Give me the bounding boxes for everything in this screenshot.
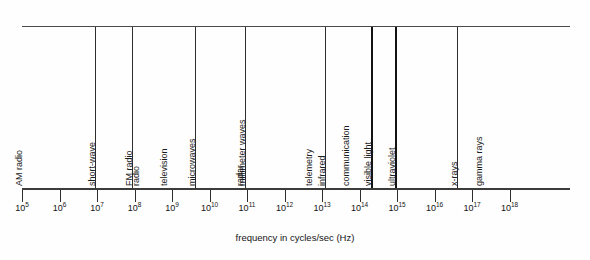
band-label-line: telemetry <box>304 149 315 186</box>
band-label: infrared <box>328 175 359 186</box>
band-label-line: FM radio <box>124 150 135 186</box>
band-label-line: visible light <box>363 142 374 186</box>
band-label: AM radio <box>25 175 61 186</box>
axis-tick <box>97 190 98 202</box>
band-label-line: short-wave <box>87 142 98 186</box>
axis-tick-label: 109 <box>165 203 179 213</box>
axis-tick-label: 1018 <box>501 203 518 213</box>
band-label: x-raysgamma rays <box>460 175 534 186</box>
axis-caption: frequency in cycles/sec (Hz) <box>0 232 590 243</box>
diagram-top-rule <box>22 26 570 27</box>
axis-tick <box>172 190 173 202</box>
axis-tick-label: 1017 <box>463 203 480 213</box>
axis-tick-label: 1014 <box>351 203 368 213</box>
band-label-line: ultraviolet <box>387 147 398 186</box>
axis-tick-label: 1010 <box>201 203 218 213</box>
spectrum-diagram: AM radioshort-waveradioFM radiotelevisio… <box>0 0 590 260</box>
axis-tick-label: 1015 <box>388 203 405 213</box>
band-label-line: microwaves <box>187 138 198 186</box>
axis-tick-label: 107 <box>90 203 104 213</box>
band-label: ultraviolet <box>398 175 437 186</box>
axis-tick-label: 105 <box>15 203 29 213</box>
axis-tick-label: 1011 <box>239 203 256 213</box>
band-label-line: x-rays <box>449 162 460 187</box>
axis-tick-label: 108 <box>128 203 142 213</box>
axis-tick-label: 1012 <box>276 203 293 213</box>
frequency-axis-line <box>22 188 570 190</box>
axis-tick-label: 106 <box>53 203 67 213</box>
axis-tick <box>135 190 136 202</box>
band-label-line: millimeter waves <box>237 119 248 186</box>
band-label-line: gamma rays <box>474 136 485 186</box>
band-label-line: television <box>159 148 170 186</box>
axis-tick-label: 1016 <box>426 203 443 213</box>
electromagnetic-spectrum-figure: AM radioshort-waveradioFM radiotelevisio… <box>0 0 590 260</box>
axis-tick-label: 1013 <box>313 203 330 213</box>
band-label-line: infrared <box>317 155 328 186</box>
band-label-line: AM radio <box>14 150 25 186</box>
axis-tick <box>22 190 23 202</box>
axis-tick <box>60 190 61 202</box>
